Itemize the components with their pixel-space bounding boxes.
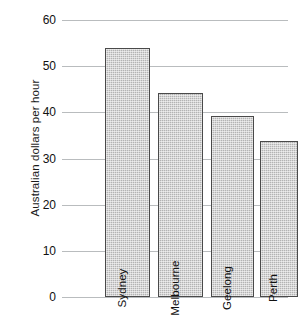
bar-label-melbourne: Melbourne — [169, 260, 181, 315]
y-tick-label: 40 — [43, 106, 56, 118]
bar-perth[interactable]: Perth — [260, 141, 298, 297]
y-tick-label: 30 — [43, 153, 56, 165]
bar-chart: Australian dollars per hour 60 50 40 30 … — [0, 0, 298, 316]
bars-layer: Sydney Melbourne Geelong Perth — [62, 20, 288, 297]
bar-label-sydney: Sydney — [116, 269, 128, 308]
y-tick-label: 60 — [43, 14, 56, 26]
y-tick-label: 20 — [43, 199, 56, 211]
bar-geelong[interactable]: Geelong — [211, 116, 254, 297]
y-tick-label: 10 — [43, 245, 56, 257]
bar-sydney[interactable]: Sydney — [105, 48, 150, 297]
y-axis-tick-labels: 60 50 40 30 20 10 0 — [0, 20, 56, 297]
bar-label-geelong: Geelong — [221, 266, 233, 310]
y-tick-label: 0 — [49, 291, 56, 303]
bar-label-perth: Perth — [267, 274, 279, 302]
bar-melbourne[interactable]: Melbourne — [158, 93, 203, 298]
y-tick-label: 50 — [43, 60, 56, 72]
